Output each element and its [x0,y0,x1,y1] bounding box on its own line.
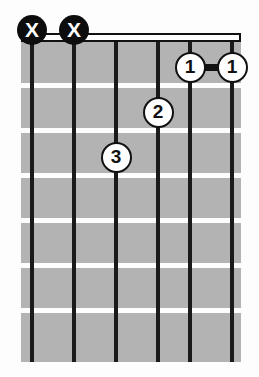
string-5 [188,42,192,362]
fret-line-3 [21,173,241,178]
chord-diagram: X X 1 1 2 3 [0,0,259,377]
string-2 [72,42,76,362]
nut-bar [21,33,241,42]
string-3 [114,42,118,362]
string-1 [30,42,34,362]
string-4 [156,42,160,362]
fret-line-2 [21,128,241,133]
fret-line-5 [21,263,241,268]
string-6 [230,42,234,362]
fret-line-4 [21,218,241,223]
fret-line-6 [21,308,241,313]
mute-marker-string-2: X [59,15,89,45]
finger-dot-string-4-fret-2: 2 [143,97,174,128]
finger-dot-string-3-fret-3: 3 [101,142,132,173]
finger-dot-string-6-fret-1: 1 [217,52,248,83]
fretboard-surface [21,42,241,362]
finger-dot-string-5-fret-1: 1 [175,52,206,83]
fret-line-1 [21,83,241,88]
mute-marker-string-1: X [17,15,47,45]
